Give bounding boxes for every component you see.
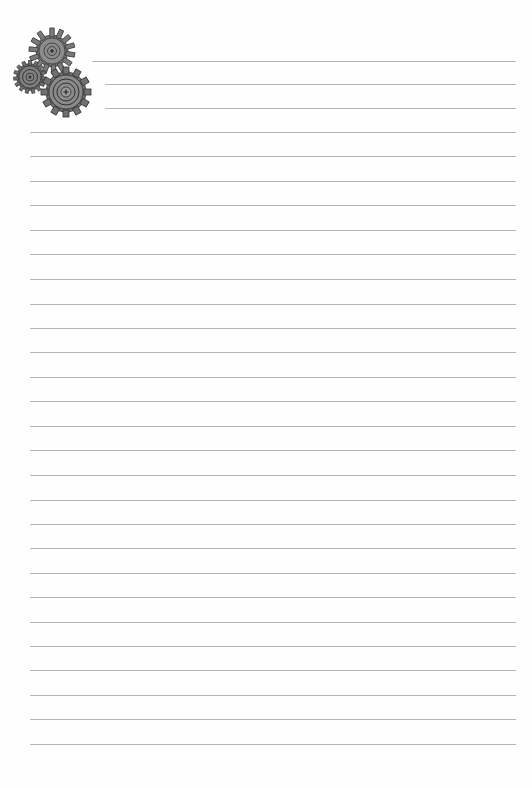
ruled-line (92, 61, 516, 62)
gear-bottom (41, 67, 91, 117)
ruled-line (30, 573, 516, 574)
ruled-line (30, 719, 516, 720)
ruled-line (30, 622, 516, 623)
ruled-line (30, 352, 516, 353)
ruled-line (30, 132, 516, 133)
ruled-line (30, 279, 516, 280)
ruled-line (30, 254, 516, 255)
ruled-line (30, 475, 516, 476)
ruled-line (105, 84, 516, 85)
ruled-line (105, 108, 516, 109)
ruled-line (30, 597, 516, 598)
ruled-line (30, 500, 516, 501)
ruled-line (30, 328, 516, 329)
ruled-line (30, 181, 516, 182)
ruled-line (30, 401, 516, 402)
gear-left (13, 61, 46, 94)
ruled-line (30, 548, 516, 549)
ruled-line (30, 230, 516, 231)
ruled-line (30, 304, 516, 305)
ruled-line (30, 524, 516, 525)
gears-icon (12, 26, 96, 122)
ruled-line (30, 450, 516, 451)
notebook-page (0, 0, 532, 788)
ruled-line (30, 670, 516, 671)
ruled-line (30, 426, 516, 427)
ruled-line (30, 744, 516, 745)
ruled-line (30, 205, 516, 206)
ruled-line (30, 695, 516, 696)
ruled-line (30, 377, 516, 378)
ruled-line (30, 646, 516, 647)
ruled-line (30, 156, 516, 157)
